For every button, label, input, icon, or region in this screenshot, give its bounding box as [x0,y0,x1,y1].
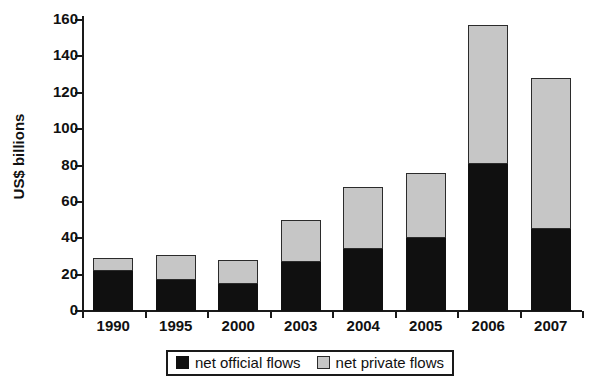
x-tick-mark [270,311,272,318]
bar-segment-private[interactable] [343,187,383,249]
bar-segment-official[interactable] [343,249,383,311]
x-tick-label: 2005 [409,317,442,334]
x-tick-mark [82,311,84,318]
y-tick-label: 20 [61,265,78,283]
bar-group[interactable]: 1995 [156,255,196,311]
bar-segment-official[interactable] [531,229,571,311]
bar-group[interactable]: 2003 [281,220,321,311]
plot-area: 020406080100120140160 199019952000200320… [82,20,582,311]
black-square-icon [176,356,189,369]
bar-segment-private[interactable] [531,78,571,229]
x-tick-mark [145,311,147,318]
bar-segment-private[interactable] [281,220,321,262]
bar-group[interactable]: 1990 [93,258,133,311]
bar-segment-private[interactable] [406,173,446,238]
x-tick-mark [520,311,522,318]
bar-group[interactable]: 2004 [343,187,383,311]
x-tick-label: 2004 [347,317,380,334]
x-tick-mark [395,311,397,318]
x-tick-label: 2000 [222,317,255,334]
x-tick-label: 2006 [472,317,505,334]
y-tick-label: 60 [61,192,78,210]
bar-segment-private[interactable] [93,258,133,271]
x-tick-mark [332,311,334,318]
x-tick-label: 2007 [534,317,567,334]
bar-segment-official[interactable] [406,238,446,311]
bar-group[interactable]: 2006 [468,25,508,311]
bar-segment-official[interactable] [93,271,133,311]
bar-group[interactable]: 2000 [218,260,258,311]
bar-segment-official[interactable] [156,280,196,311]
y-tick-label: 40 [61,228,78,246]
x-tick-mark [582,311,584,318]
legend-label: net private flows [336,354,444,371]
y-tick-label: 100 [53,119,78,137]
legend-entry[interactable]: net official flows [176,354,301,371]
bar-segment-official[interactable] [218,284,258,311]
y-tick-label: 140 [53,46,78,64]
legend-label: net official flows [195,354,301,371]
bar-group[interactable]: 2005 [406,173,446,311]
y-tick-label: 80 [61,156,78,174]
y-tick-label: 160 [53,10,78,28]
gray-square-icon [317,356,330,369]
bar-segment-official[interactable] [281,262,321,311]
y-tick-label: 120 [53,83,78,101]
bar-segment-official[interactable] [468,164,508,311]
y-axis-line [82,16,84,313]
stacked-bar-chart: US$ billions 020406080100120140160 19901… [0,0,598,378]
bar-group[interactable]: 2007 [531,78,571,311]
x-tick-label: 2003 [284,317,317,334]
x-tick-mark [207,311,209,318]
x-tick-label: 1990 [97,317,130,334]
x-tick-mark [457,311,459,318]
bar-segment-private[interactable] [468,25,508,163]
y-tick-label: 0 [70,301,78,319]
legend-entry[interactable]: net private flows [317,354,444,371]
x-tick-label: 1995 [159,317,192,334]
bar-segment-private[interactable] [218,260,258,284]
chart-legend: net official flowsnet private flows [166,350,454,376]
bar-segment-private[interactable] [156,255,196,280]
y-axis-title: US$ billions [10,87,27,227]
